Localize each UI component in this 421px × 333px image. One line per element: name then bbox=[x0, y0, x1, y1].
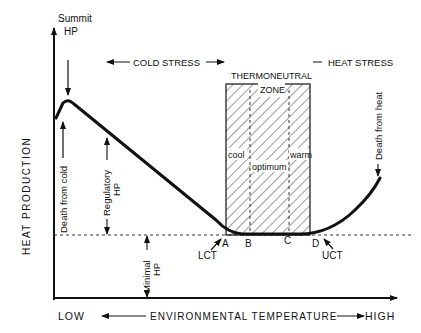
uct-arrow-icon bbox=[324, 239, 333, 249]
summit-label-line1: Summit bbox=[58, 13, 92, 24]
thermoneutral-label-line1: THERMONEUTRAL bbox=[231, 71, 312, 81]
cool-label: cool bbox=[228, 150, 245, 160]
death-heat-label: Death from heat bbox=[373, 92, 384, 160]
x-axis-high-label: HIGH bbox=[365, 310, 395, 322]
thermoneutral-label-line2: ZONE bbox=[260, 85, 285, 95]
summit-label-line2: HP bbox=[64, 26, 78, 37]
y-axis-label: HEAT PRODUCTION bbox=[21, 137, 32, 255]
regulatory-label-line2: HP bbox=[111, 183, 122, 196]
x-axis-low-label: LOW bbox=[58, 310, 85, 322]
uct-label: UCT bbox=[322, 250, 343, 261]
x-axis-label: ENVIRONMENTAL TEMPERATURE bbox=[150, 311, 337, 322]
point-d-label: D bbox=[312, 238, 319, 249]
point-a-label: A bbox=[222, 238, 229, 249]
optimum-label: optimum bbox=[252, 162, 287, 172]
minimal-label-line2: HP bbox=[151, 263, 162, 276]
cold-stress-label: COLD STRESS bbox=[133, 57, 200, 68]
death-cold-label: Death from cold bbox=[58, 166, 69, 233]
lct-arrow-icon bbox=[211, 239, 221, 250]
heat-production-diagram: Summit HP COLD STRESS HEAT STRESS THERMO… bbox=[0, 0, 421, 333]
point-c-label: C bbox=[284, 235, 291, 246]
heat-stress-label: HEAT STRESS bbox=[328, 57, 393, 68]
lct-label: LCT bbox=[198, 250, 217, 261]
warm-label: warm bbox=[289, 150, 312, 160]
point-b-label: B bbox=[245, 238, 252, 249]
